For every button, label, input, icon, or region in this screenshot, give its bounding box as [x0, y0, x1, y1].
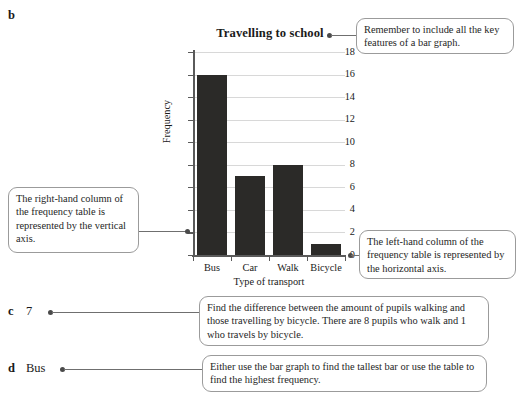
x-tick-0 — [193, 256, 194, 261]
y-tick-label-12: 12 — [321, 113, 355, 124]
y-tick-label-4: 4 — [321, 203, 355, 214]
y-tick-10 — [188, 142, 194, 143]
part-answer-d: Bus — [26, 361, 45, 376]
y-tick-18 — [188, 52, 194, 53]
x-tick-1 — [231, 256, 232, 261]
x-tick-4 — [345, 256, 346, 261]
part-label-b: b — [8, 8, 15, 23]
chart-plot-area — [193, 52, 345, 255]
x-tick-3 — [307, 256, 308, 261]
bar-car — [235, 176, 265, 255]
y-tick-12 — [188, 120, 194, 121]
x-tick-label-walk: Walk — [269, 262, 307, 273]
y-tick-label-14: 14 — [321, 91, 355, 102]
y-tick-4 — [188, 210, 194, 211]
y-tick-label-18: 18 — [321, 46, 355, 57]
bar-walk — [273, 165, 303, 255]
callout-title-note: Remember to include all the key features… — [356, 18, 514, 54]
x-tick-2 — [269, 256, 270, 261]
y-tick-14 — [188, 97, 194, 98]
y-tick-8 — [188, 165, 194, 166]
part-label-c: c — [8, 304, 14, 319]
bar-bus — [197, 75, 227, 255]
callout-vertical-axis-note: The right-hand column of the frequency t… — [8, 187, 139, 253]
part-label-d: d — [8, 361, 15, 376]
x-axis-title: Type of transport — [193, 276, 345, 287]
y-tick-label-6: 6 — [321, 181, 355, 192]
x-tick-label-bus: Bus — [193, 262, 231, 273]
x-tick-label-bicycle: Bicycle — [305, 262, 347, 273]
x-tick-label-car: Car — [231, 262, 269, 273]
bar-chart: Travelling to school 18 16 14 12 10 8 6 … — [150, 20, 355, 285]
connector-line-d — [64, 369, 203, 370]
y-tick-label-2: 2 — [321, 226, 355, 237]
connector-line-vertical-axis — [139, 231, 187, 232]
y-axis-title: Frequency — [161, 62, 172, 182]
y-tick-label-10: 10 — [321, 136, 355, 147]
connector-dot-vertical-axis — [185, 229, 190, 234]
callout-horizontal-axis-note: The left-hand column of the frequency ta… — [359, 230, 516, 279]
y-axis-line — [193, 50, 195, 257]
part-answer-c: 7 — [26, 304, 32, 319]
callout-part-d-note: Either use the bar graph to find the tal… — [202, 355, 487, 392]
y-tick-6 — [188, 187, 194, 188]
connector-line-horizontal-axis — [351, 255, 359, 256]
connector-line-title — [331, 35, 356, 36]
callout-part-c-note: Find the difference between the amount o… — [199, 296, 489, 346]
y-tick-label-8: 8 — [321, 158, 355, 169]
connector-line-c — [52, 312, 200, 313]
chart-title: Travelling to school — [194, 26, 346, 41]
y-tick-16 — [188, 75, 194, 76]
y-tick-label-16: 16 — [321, 68, 355, 79]
